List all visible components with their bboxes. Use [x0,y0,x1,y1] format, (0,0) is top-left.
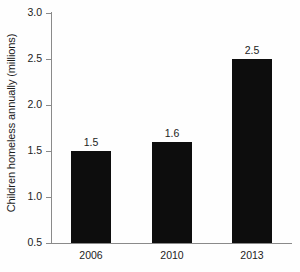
y-axis-tick-mark [46,243,51,244]
bar [152,142,192,243]
y-axis-tick-label: 1.0 [27,190,42,202]
bar-chart: Children homeless annually (millions) 0.… [0,0,300,272]
y-axis-title: Children homeless annually (millions) [0,0,22,245]
bar-value-label: 1.6 [132,127,212,139]
bar [71,151,111,243]
y-axis-tick-label: 3.0 [27,6,42,18]
x-axis-category-label: 2010 [132,249,212,261]
y-axis-tick-mark [46,105,51,106]
y-axis-tick-label: 2.0 [27,98,42,110]
y-axis-title-text: Children homeless annually (millions) [5,33,17,212]
y-axis-line [51,12,52,244]
x-axis-line [51,243,292,244]
bar [232,59,272,243]
bar-value-label: 1.5 [51,136,131,148]
y-axis-tick-mark [46,151,51,152]
y-axis-tick-label: 0.5 [27,236,42,248]
y-axis-tick-label: 2.5 [27,52,42,64]
y-axis-tick-mark [46,197,51,198]
x-axis-category-label: 2006 [51,249,131,261]
x-axis-category-label: 2013 [212,249,292,261]
y-axis-tick-mark [46,59,51,60]
y-axis-tick-mark [46,13,51,14]
y-axis-tick-label: 1.5 [27,144,42,156]
bar-value-label: 2.5 [212,44,292,56]
